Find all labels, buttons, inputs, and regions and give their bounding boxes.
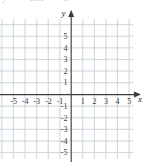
x-axis-label: x <box>137 94 142 104</box>
y-tick-label: -3 <box>61 125 68 134</box>
x-tick-label: -5 <box>10 97 17 106</box>
y-tick-labels-negative: -1 -2 -3 -4 -5 <box>61 102 68 157</box>
y-tick-label: 5 <box>64 32 68 41</box>
y-tick-label: 4 <box>64 44 68 53</box>
x-tick-label: -3 <box>33 97 40 106</box>
x-tick-label: 2 <box>92 97 96 106</box>
y-tick-label: -2 <box>61 114 68 123</box>
coordinate-grid-figure: y mx b <box>0 0 149 162</box>
x-tick-label: -2 <box>45 97 52 106</box>
x-tick-label: 4 <box>116 97 120 106</box>
x-tick-label: -4 <box>22 97 29 106</box>
y-tick-label: 1 <box>64 78 68 87</box>
y-tick-labels-positive: 5 4 3 2 1 <box>64 32 68 87</box>
y-tick-label: -4 <box>61 137 68 146</box>
x-tick-label: 5 <box>127 97 131 106</box>
y-tick-label: 2 <box>64 67 68 76</box>
coordinate-plane-svg: x y -5 -4 -3 -2 -1 1 2 3 4 5 5 4 3 2 1 -… <box>0 0 149 162</box>
x-tick-label: 3 <box>104 97 108 106</box>
y-tick-label: -5 <box>61 148 68 157</box>
y-tick-label: 3 <box>64 55 68 64</box>
y-tick-label: -1 <box>61 102 68 111</box>
x-tick-label: 1 <box>81 97 85 106</box>
y-axis-label: y <box>61 8 66 18</box>
